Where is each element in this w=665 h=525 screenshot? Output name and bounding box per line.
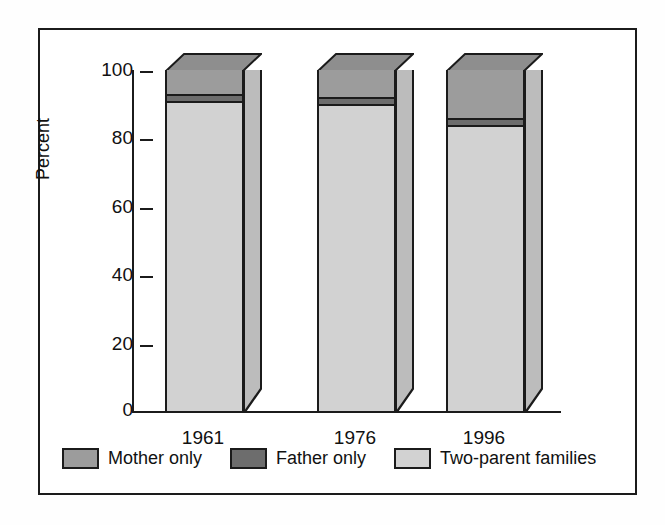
bar-1996-segment-mother-only[interactable]: [446, 70, 525, 118]
y-tick-mark-100: [140, 71, 153, 73]
bar-1976[interactable]: [317, 70, 396, 413]
x-tick-label-1961: 1961: [148, 427, 258, 449]
bar-1961-top-face: [165, 53, 244, 70]
y-tick-label-60: 60: [87, 197, 133, 216]
bar-1961-side-face: [244, 70, 262, 413]
legend-label-father-only: Father only: [276, 448, 366, 469]
legend-swatch-two-parent: [394, 448, 431, 469]
bar-1976-side-face: [396, 70, 414, 413]
plot-area: Percent 100 80 60 40 20 0: [40, 30, 639, 497]
legend-swatch-mother-only: [62, 448, 99, 469]
bar-1976-segment-two-parent[interactable]: [317, 104, 396, 413]
bar-1976-top-face: [317, 53, 396, 70]
legend-item-two-parent[interactable]: Two-parent families: [394, 448, 596, 469]
bar-1996-segment-father-only[interactable]: [446, 118, 525, 125]
chart-legend: Mother only Father only Two-parent famil…: [62, 448, 624, 469]
legend-item-mother-only[interactable]: Mother only: [62, 448, 202, 469]
bar-1996-side-face: [525, 70, 543, 413]
y-tick-label-0: 0: [87, 400, 133, 419]
bar-1996-top-face: [446, 53, 525, 70]
chart-figure: Percent 100 80 60 40 20 0: [0, 0, 665, 525]
y-axis-line: [132, 70, 134, 413]
legend-swatch-father-only: [230, 448, 267, 469]
y-tick-label-20: 20: [87, 334, 133, 353]
y-axis-label: Percent: [33, 118, 54, 180]
y-tick-mark-20: [140, 345, 153, 347]
bar-1961-segment-two-parent[interactable]: [165, 101, 244, 413]
y-tick-label-100: 100: [87, 60, 133, 79]
legend-label-mother-only: Mother only: [108, 448, 202, 469]
y-tick-label-40: 40: [87, 265, 133, 284]
y-tick-mark-40: [140, 276, 153, 278]
bar-1996[interactable]: [446, 70, 525, 413]
bar-1961[interactable]: [165, 70, 244, 413]
bar-1976-segment-mother-only[interactable]: [317, 70, 396, 97]
y-tick-mark-60: [140, 208, 153, 210]
figure-frame: Percent 100 80 60 40 20 0: [38, 28, 637, 495]
bar-1961-segment-father-only[interactable]: [165, 94, 244, 101]
bar-1976-segment-father-only[interactable]: [317, 97, 396, 104]
y-tick-mark-80: [140, 139, 153, 141]
bar-1996-segment-two-parent[interactable]: [446, 125, 525, 413]
bar-1961-segment-mother-only[interactable]: [165, 70, 244, 94]
y-axis-ticks: 100 80 60 40 20 0: [60, 30, 133, 413]
x-tick-label-1976: 1976: [300, 427, 410, 449]
legend-label-two-parent: Two-parent families: [440, 448, 596, 469]
y-tick-label-80: 80: [87, 128, 133, 147]
legend-item-father-only[interactable]: Father only: [230, 448, 366, 469]
x-tick-label-1996: 1996: [429, 427, 539, 449]
x-axis-line: [132, 411, 561, 413]
